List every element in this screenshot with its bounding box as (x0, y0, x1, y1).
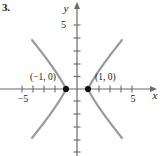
x-tick-label-neg5: −5 (18, 93, 29, 104)
curve-right-lower (88, 89, 122, 138)
exercise-figure: 3. (0, 0, 162, 156)
curve-left-lower (32, 89, 66, 138)
point-label-right: (1, 0) (95, 72, 116, 83)
x-axis-label: x (152, 89, 158, 101)
y-axis-label: y (63, 2, 69, 14)
y-tick-label-5: 5 (61, 19, 66, 30)
point-marker-left (63, 86, 69, 92)
x-tick-label-5: 5 (131, 93, 136, 104)
point-label-left: (−1, 0) (30, 72, 56, 83)
hyperbola-plot: y x 5 −5 5 (−1, 0) (1, 0) (0, 0, 162, 156)
y-axis-arrow-icon (74, 2, 80, 9)
point-marker-right (85, 86, 91, 92)
